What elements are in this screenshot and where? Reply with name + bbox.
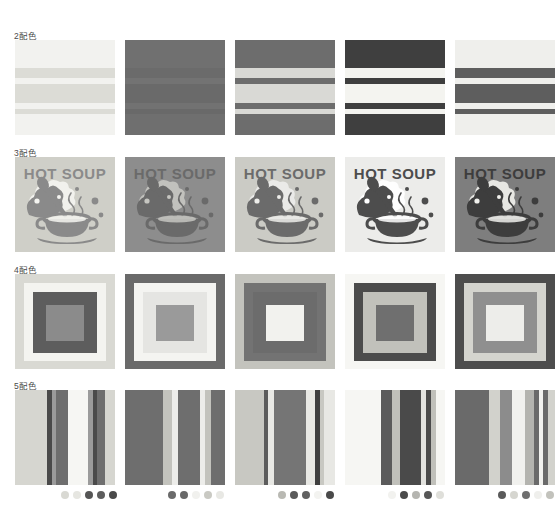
palette-dot xyxy=(546,491,554,499)
stripe-band xyxy=(97,390,105,485)
palette-dot xyxy=(412,491,420,499)
stripe-band xyxy=(235,40,335,68)
palette-dot xyxy=(522,491,530,499)
stripe-band xyxy=(163,390,172,485)
stripe-band xyxy=(15,40,115,68)
soup-artwork: HOT SOUP xyxy=(15,157,115,252)
stripe-band xyxy=(235,390,264,485)
swatch-2color-1[interactable] xyxy=(15,40,115,135)
swatch-4color-3[interactable] xyxy=(235,274,335,369)
row-5color xyxy=(0,390,559,485)
stripe-band xyxy=(125,40,225,68)
nested-square-layer xyxy=(46,305,84,341)
soup-title-text: HOT SOUP xyxy=(244,165,326,182)
swatch-5color-1[interactable] xyxy=(15,390,115,485)
stripe-band xyxy=(125,114,225,135)
swatch-5color-5[interactable] xyxy=(455,390,555,485)
swatch-2color-2[interactable] xyxy=(125,40,225,135)
palette-dot xyxy=(510,491,518,499)
row-2color xyxy=(0,40,559,135)
nested-square-layer xyxy=(376,305,414,341)
soup-title-text: HOT SOUP xyxy=(134,165,216,182)
soup-artwork: HOT SOUP xyxy=(125,157,225,252)
swatch-3color-2[interactable]: HOT SOUP xyxy=(125,157,225,252)
palette-dot xyxy=(534,491,542,499)
stripe-band xyxy=(345,40,445,68)
stripe-band xyxy=(392,390,400,485)
palette-dot xyxy=(326,491,334,499)
palette-dot xyxy=(498,491,506,499)
palette-dot xyxy=(180,491,188,499)
stripe-band xyxy=(15,390,47,485)
soup-title-text: HOT SOUP xyxy=(354,165,436,182)
palette-dot xyxy=(97,491,105,499)
swatch-3color-3[interactable]: HOT SOUP xyxy=(235,157,335,252)
stripe-band xyxy=(436,390,445,485)
legend-palette-1[interactable] xyxy=(61,488,117,502)
stripe-band xyxy=(381,390,392,485)
stripe-band xyxy=(125,390,163,485)
swatch-3color-1[interactable]: HOT SOUP xyxy=(15,157,115,252)
stripe-band xyxy=(455,68,555,78)
palette-dot xyxy=(302,491,310,499)
swatch-3color-5[interactable]: HOT SOUP xyxy=(455,157,555,252)
palette-dot xyxy=(436,491,444,499)
stripe-band xyxy=(56,390,68,485)
swatch-5color-4[interactable] xyxy=(345,390,445,485)
swatch-4color-2[interactable] xyxy=(125,274,225,369)
swatch-4color-5[interactable] xyxy=(455,274,555,369)
stripe-band xyxy=(274,390,306,485)
palette-dot xyxy=(192,491,200,499)
stripe-band xyxy=(455,40,555,68)
swatch-4color-4[interactable] xyxy=(345,274,445,369)
nested-square-layer xyxy=(266,305,304,341)
swatch-5color-3[interactable] xyxy=(235,390,335,485)
stripe-band xyxy=(455,84,555,103)
stripe-band xyxy=(455,114,555,135)
color-scheme-sheet: 2配色 3配色 HOT SOUP HOT SOUP HOT SOUP HOT S… xyxy=(0,0,559,511)
palette-dot xyxy=(290,491,298,499)
palette-dot xyxy=(216,491,224,499)
legend-palette-2[interactable] xyxy=(168,488,224,502)
stripe-band xyxy=(548,390,555,485)
soup-artwork: HOT SOUP xyxy=(455,157,555,252)
palette-dot xyxy=(73,491,81,499)
soup-title-text: HOT SOUP xyxy=(464,165,546,182)
legend-palette-5[interactable] xyxy=(498,488,554,502)
stripe-band xyxy=(235,84,335,103)
stripe-band xyxy=(345,114,445,135)
nested-square-layer xyxy=(156,305,194,341)
stripe-band xyxy=(512,390,525,485)
stripe-band xyxy=(345,68,445,78)
palette-dot xyxy=(314,491,322,499)
swatch-2color-5[interactable] xyxy=(455,40,555,135)
swatch-2color-3[interactable] xyxy=(235,40,335,135)
stripe-band xyxy=(489,390,500,485)
nested-square-layer xyxy=(486,305,524,341)
swatch-5color-2[interactable] xyxy=(125,390,225,485)
row-4color xyxy=(0,274,559,369)
stripe-band xyxy=(500,390,512,485)
palette-dot xyxy=(278,491,286,499)
stripe-band xyxy=(345,84,445,103)
soup-artwork: HOT SOUP xyxy=(345,157,445,252)
palette-dot xyxy=(400,491,408,499)
swatch-3color-4[interactable]: HOT SOUP xyxy=(345,157,445,252)
stripe-band xyxy=(211,390,225,485)
legend-palette-4[interactable] xyxy=(388,488,444,502)
legend-palette-3[interactable] xyxy=(278,488,334,502)
stripe-band xyxy=(324,390,335,485)
stripe-band xyxy=(178,390,200,485)
soup-title-text: HOT SOUP xyxy=(24,165,106,182)
palette-dot xyxy=(388,491,396,499)
stripe-band xyxy=(15,84,115,103)
swatch-2color-4[interactable] xyxy=(345,40,445,135)
stripe-band xyxy=(525,390,534,485)
palette-dot xyxy=(61,491,69,499)
swatch-4color-1[interactable] xyxy=(15,274,115,369)
stripe-band xyxy=(235,68,335,78)
stripe-band xyxy=(125,68,225,78)
palette-dot xyxy=(109,491,117,499)
stripe-band xyxy=(345,390,381,485)
stripe-band xyxy=(306,390,315,485)
